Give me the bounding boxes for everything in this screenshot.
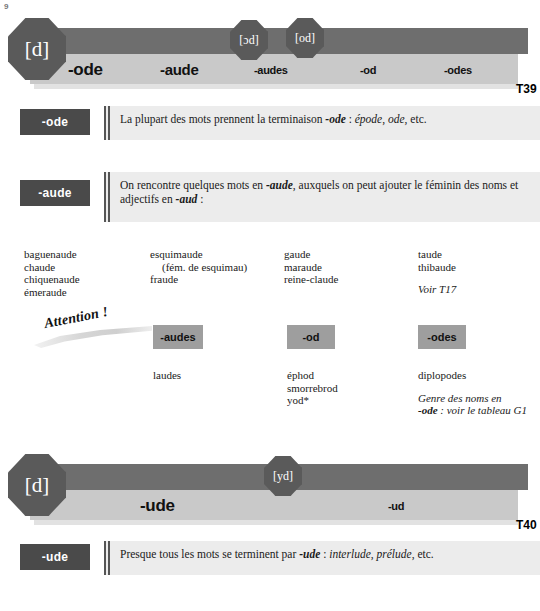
banner-code-audes: -audes — [254, 64, 288, 76]
table-number-t40: T40 — [516, 518, 537, 532]
word-item: taude — [418, 248, 456, 261]
cross-reference-line1: Genre des noms en — [418, 392, 502, 404]
word-item-note: (fém. de esquimau) — [150, 261, 247, 274]
exception-words-odes: diplopodes Genre des noms en -ode : voir… — [418, 369, 527, 417]
tag-od: -od — [287, 325, 335, 349]
rule-text-ude: Presque tous les mots se terminent par -… — [111, 541, 442, 566]
word-column-2: esquimaude (fém. de esquimau) fraude — [150, 248, 247, 286]
cross-reference-line2: : voir le tableau G1 — [438, 404, 528, 416]
word-item: chiquenaude — [24, 273, 80, 286]
word-item: thibaude — [418, 261, 456, 274]
banner-shadow-bar — [34, 520, 518, 525]
rule-body-aude: On rencontre quelques mots en -aude, aux… — [104, 172, 540, 222]
banner-shadow-bar — [34, 84, 518, 89]
word-item: laudes — [153, 369, 181, 382]
cross-reference-bold: -ode — [418, 404, 438, 416]
banner-code-odes: -odes — [444, 64, 472, 76]
word-column-3: gaude maraude reine-claude — [284, 248, 338, 286]
banner-code-ude: -ude — [140, 496, 175, 516]
word-item: fraude — [150, 273, 247, 286]
word-item: reine-claude — [284, 273, 338, 286]
tag-odes: -odes — [418, 325, 466, 349]
banner-t40: [d] [yd] -ude -ud T40 — [0, 444, 540, 544]
rule-block-aude: -aude On rencontre quelques mots en -aud… — [0, 172, 540, 228]
rule-block-ude: -ude Presque tous les mots se terminent … — [0, 541, 540, 577]
word-column-4: taude thibaude Voir T17 — [418, 248, 456, 296]
cross-reference-g1: Genre des noms en -ode : voir le tableau… — [418, 392, 527, 417]
word-item: diplopodes — [418, 369, 527, 382]
word-column-1: baguenaude chaude chiquenaude émeraude — [24, 248, 80, 298]
chip-ude: -ude — [20, 544, 90, 570]
tag-audes: -audes — [153, 325, 203, 349]
chip-ode: -ode — [20, 109, 90, 135]
word-item: chaude — [24, 261, 80, 274]
phonetic-badge-closed-o-d: [od] — [286, 18, 324, 58]
word-item: yod* — [287, 394, 338, 407]
banner-code-od: -od — [360, 64, 376, 76]
rule-divider — [104, 106, 111, 140]
attention-graphic: Attention ! — [34, 312, 154, 352]
word-item: éphod — [287, 369, 338, 382]
chip-aude: -aude — [20, 180, 90, 206]
rule-body-ode: La plupart des mots prennent la terminai… — [104, 106, 540, 140]
banner-dark-bar — [30, 28, 528, 54]
rule-divider — [104, 541, 111, 575]
cross-reference-t17: Voir T17 — [418, 283, 456, 296]
word-item: émeraude — [24, 286, 80, 299]
banner-code-ud: -ud — [388, 500, 404, 512]
rule-divider — [104, 172, 111, 222]
table-number-t39: T39 — [516, 82, 537, 96]
word-item: baguenaude — [24, 248, 80, 261]
banner-t39: [d] [ɔd] [od] -ode -aude -audes -od -ode… — [0, 0, 540, 100]
rule-text-aude: On rencontre quelques mots en -aude, aux… — [111, 172, 540, 211]
word-item: esquimaude — [150, 248, 247, 261]
banner-code-ode: -ode — [68, 60, 103, 80]
rule-body-ude: Presque tous les mots se terminent par -… — [104, 541, 540, 575]
rule-text-ode: La plupart des mots prennent la terminai… — [111, 106, 435, 131]
word-item: maraude — [284, 261, 338, 274]
phonetic-badge-yd: [yd] — [264, 456, 302, 496]
banner-code-aude: -aude — [160, 61, 199, 78]
exception-words-audes: laudes — [153, 369, 181, 382]
word-item: gaude — [284, 248, 338, 261]
word-item: smorrebrod — [287, 382, 338, 395]
attention-label: Attention ! — [43, 304, 110, 332]
exception-words-od: éphod smorrebrod yod* — [287, 369, 338, 407]
rule-block-ode: -ode La plupart des mots prennent la ter… — [0, 106, 540, 142]
